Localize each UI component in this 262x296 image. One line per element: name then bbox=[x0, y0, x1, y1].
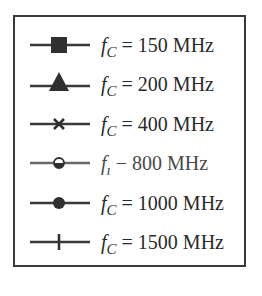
square-marker-icon bbox=[28, 30, 92, 60]
chart-legend: fC = 150 MHz fC = 200 MHz fC = 400 MHz f… bbox=[13, 15, 246, 267]
legend-entry-1000mhz: fC = 1000 MHz bbox=[15, 188, 244, 218]
circle-marker-icon bbox=[28, 188, 92, 218]
legend-label: fC = 400 MHz bbox=[101, 111, 214, 139]
legend-label: fC = 1000 MHz bbox=[101, 190, 224, 218]
legend-label: fC = 1500 MHz bbox=[101, 229, 224, 257]
legend-entry-1500mhz: fC = 1500 MHz bbox=[15, 227, 244, 257]
legend-label: fC = 200 MHz bbox=[101, 71, 214, 99]
triangle-marker-icon bbox=[28, 69, 92, 99]
legend-entry-800mhz: fı − 800 MHz bbox=[15, 148, 244, 178]
legend-entry-150mhz: fC = 150 MHz bbox=[15, 30, 244, 60]
legend-label: fC = 150 MHz bbox=[101, 32, 214, 60]
legend-label: fı − 800 MHz bbox=[101, 150, 208, 178]
half-filled-circle-marker-icon bbox=[28, 148, 92, 178]
plus-marker-icon bbox=[28, 227, 92, 257]
x-marker-icon bbox=[28, 109, 92, 139]
legend-entry-200mhz: fC = 200 MHz bbox=[15, 69, 244, 99]
legend-entry-400mhz: fC = 400 MHz bbox=[15, 109, 244, 139]
